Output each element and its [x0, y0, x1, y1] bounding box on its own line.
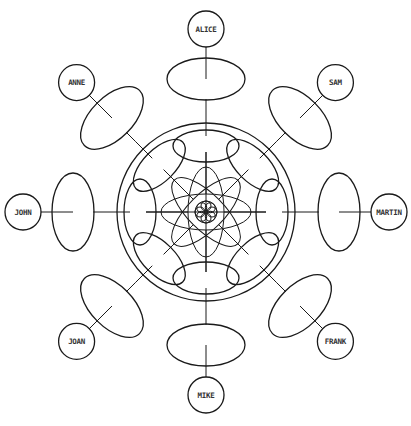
- node-label: FRANK: [325, 337, 347, 346]
- node-label: MARTIN: [376, 208, 402, 217]
- node-sam[interactable]: SAM: [317, 65, 353, 101]
- connector-line: [277, 283, 286, 292]
- connector-line: [126, 132, 135, 141]
- node-label: ANNE: [68, 78, 86, 87]
- node-martin[interactable]: MARTIN: [371, 194, 407, 230]
- connector-line: [277, 132, 286, 141]
- diagram-canvas: ALICESAMMARTINFRANKMIKEJOANJOHNANNE: [0, 0, 411, 426]
- node-john[interactable]: JOHN: [5, 194, 41, 230]
- node-anne[interactable]: ANNE: [59, 65, 95, 101]
- node-mike[interactable]: MIKE: [188, 377, 224, 413]
- node-frank[interactable]: FRANK: [317, 323, 353, 359]
- radial-diagram: ALICESAMMARTINFRANKMIKEJOANJOHNANNE: [0, 0, 411, 426]
- node-label: ALICE: [195, 25, 217, 34]
- node-alice[interactable]: ALICE: [188, 11, 224, 47]
- connector-line: [126, 283, 135, 292]
- node-joan[interactable]: JOAN: [59, 323, 95, 359]
- node-label: SAM: [329, 78, 342, 87]
- node-label: JOAN: [68, 337, 86, 346]
- node-label: JOHN: [15, 208, 33, 217]
- node-label: MIKE: [198, 391, 216, 400]
